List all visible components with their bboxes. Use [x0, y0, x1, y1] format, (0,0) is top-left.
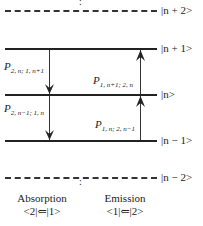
arrowhead-up-icon [136, 50, 145, 61]
ket-n: |n> [161, 88, 175, 100]
absorption-caption: Absorption <2|⇐|1> [7, 192, 77, 218]
ket-n-minus-1: |n − 1> [161, 134, 192, 146]
emission-formula: <1|⇐|2> [90, 205, 160, 218]
level-n-plus-1-line [5, 48, 157, 50]
emission-caption: Emission <1|⇐|2> [90, 192, 160, 218]
arrowhead-down-icon [45, 84, 54, 95]
level-n-plus-2-line [5, 10, 157, 12]
emission-title: Emission [90, 192, 160, 205]
arrowhead-up-icon [136, 96, 145, 107]
level-n-minus-1-line [5, 140, 157, 142]
ellipsis-bottom: : [79, 180, 82, 184]
level-n-line [5, 94, 157, 96]
arrowhead-down-icon [45, 130, 54, 141]
transition-label-1: P2, n; 1, n+1 [4, 60, 44, 75]
ket-n-plus-2: |n + 2> [161, 4, 192, 16]
ket-n-minus-2: |n − 2> [161, 171, 192, 183]
ellipsis-top: : [79, 0, 82, 4]
transition-label-2: P1, n+1; 2, n [93, 74, 133, 89]
absorption-title: Absorption [7, 192, 77, 205]
ket-n-plus-1: |n + 1> [161, 42, 192, 54]
transition-label-3: P2, n−1; 1, n [4, 102, 44, 117]
absorption-formula: <2|⇐|1> [7, 205, 77, 218]
transition-label-4: P1, n; 2, n−1 [95, 118, 135, 133]
